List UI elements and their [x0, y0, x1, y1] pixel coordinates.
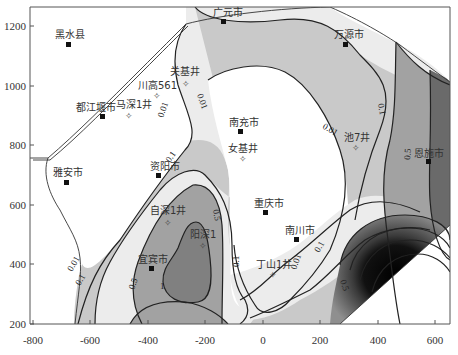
city-marker-icon: [64, 180, 69, 185]
well-label: 阳深1: [190, 229, 216, 240]
city-marker-icon: [221, 19, 226, 24]
city-marker-icon: [66, 42, 71, 47]
city-marker-icon: [426, 159, 431, 164]
well-label: 自深1井: [150, 204, 186, 216]
well-label: 川高561: [138, 79, 177, 91]
x-tick-label: -600: [80, 334, 101, 346]
city-label: 宜宾市: [138, 253, 168, 265]
y-tick-label: 800: [10, 139, 27, 151]
x-tick-label: -800: [23, 334, 44, 346]
city-label: 重庆市: [254, 197, 284, 209]
y-tick-label: 1000: [4, 80, 27, 92]
city-label: 南充市: [229, 116, 259, 128]
well-label: 马深1井: [116, 98, 152, 110]
city-label: 万源市: [334, 28, 364, 40]
city-label: 南川市: [285, 224, 315, 236]
well-label: 关基井: [170, 65, 200, 77]
well-star-icon: ✧: [352, 143, 360, 153]
well-label: 丁山1井: [256, 258, 292, 270]
contour-label: 0.1: [231, 256, 241, 267]
city-label: 黑水县: [55, 29, 85, 40]
well-label: 池7井: [344, 131, 370, 143]
city-marker-icon: [343, 42, 348, 47]
contour-label: 0.5: [402, 148, 413, 161]
contour-label: 1: [160, 281, 165, 291]
city-label: 资阳市: [150, 160, 180, 172]
well-label: 女基井: [228, 142, 258, 154]
well-star-icon: ✧: [239, 154, 247, 164]
city-label: 都江堰市: [76, 101, 116, 113]
city-marker-icon: [294, 237, 299, 242]
contour-label: 0.1: [376, 103, 388, 116]
city-label: 雅安市: [53, 166, 83, 178]
plot-area: [30, 7, 450, 324]
y-tick-label: 600: [10, 199, 27, 211]
well-star-icon: ✧: [153, 91, 161, 101]
well-star-icon: ✧: [164, 218, 172, 228]
x-tick-label: 0: [260, 334, 266, 346]
x-tick-label: 200: [312, 334, 329, 346]
x-tick-label: 400: [370, 334, 387, 346]
city-label: 广元市: [213, 6, 243, 18]
y-tick-label: 200: [10, 318, 27, 330]
well-star-icon: ✧: [199, 241, 207, 251]
city-marker-icon: [100, 114, 105, 119]
contour-label: 0.5: [211, 209, 223, 222]
x-tick-label: -200: [195, 334, 216, 346]
well-star-icon: ✧: [182, 79, 190, 89]
x-tick-label: 600: [427, 334, 444, 346]
city-marker-icon: [156, 173, 161, 178]
x-tick-label: -400: [138, 334, 159, 346]
city-marker-icon: [238, 129, 243, 134]
city-marker-icon: [263, 210, 268, 215]
well-star-icon: ✧: [269, 270, 277, 280]
y-tick-label: 1200: [4, 20, 27, 32]
city-marker-icon: [149, 266, 154, 271]
well-star-icon: ✧: [125, 111, 133, 121]
city-label: 恩施市: [414, 147, 444, 159]
y-tick-label: 400: [10, 258, 27, 270]
contour-map-chart: -800 -600 -400 -200 0 200 400 600 1200 1…: [0, 0, 458, 355]
